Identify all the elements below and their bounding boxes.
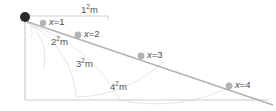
point-x3-label-val: 3 — [157, 49, 162, 60]
distance-label-3-unit: m — [85, 58, 93, 69]
point-x4-label-val: 4 — [245, 79, 250, 90]
point-x1-label-val: 1 — [59, 16, 64, 27]
point-x3-label: x=3 — [147, 50, 163, 60]
arc-3 — [30, 24, 76, 97]
point-x1-label: x=1 — [49, 17, 65, 27]
diagram-canvas — [0, 0, 276, 111]
distance-label-2-unit: m — [60, 36, 68, 47]
point-x2-label-val: 2 — [94, 28, 99, 39]
point-x4-label: x=4 — [235, 80, 251, 90]
point-x2-label: x=2 — [84, 29, 100, 39]
arc-6 — [120, 85, 234, 104]
point-x2-dot — [75, 32, 82, 39]
point-x4-dot — [226, 83, 233, 90]
point-x1-dot — [40, 20, 46, 26]
diagonal-ray-line — [25, 21, 273, 105]
geometry-diagram: x=1 x=2 x=3 x=4 12m 22m 32m 42m — [0, 0, 276, 111]
distance-label-4: 42m — [110, 82, 127, 92]
distance-label-1-unit: m — [90, 4, 98, 15]
distance-label-2: 22m — [51, 37, 68, 47]
distance-label-3: 32m — [76, 59, 93, 69]
point-x3-dot — [138, 53, 145, 60]
distance-label-4-unit: m — [119, 81, 127, 92]
source-point-dot — [20, 12, 30, 22]
distance-label-1: 12m — [81, 5, 98, 15]
